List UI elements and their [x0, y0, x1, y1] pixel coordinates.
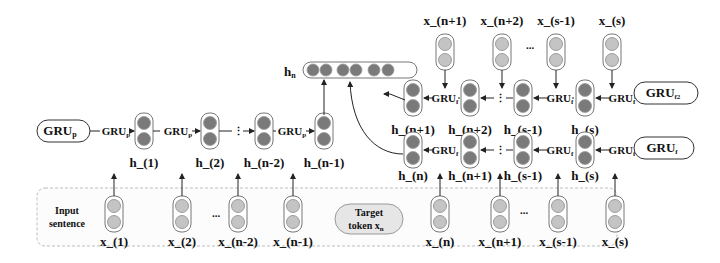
hidden-state-cell [514, 80, 532, 116]
input-token-cell [547, 34, 565, 70]
input-token-label: x_(s) [599, 13, 626, 28]
concatenated-hidden-vector: hn [284, 62, 417, 80]
input-token-cell [105, 196, 123, 232]
hidden-state-label: h_(n) [398, 168, 428, 183]
input-token-label: x_(2) [168, 234, 196, 249]
gru-p-cell-label: GRUp [278, 125, 306, 139]
gru-f-cell-label: GRUf [609, 92, 636, 106]
gru-p-module: GRUp [37, 120, 90, 142]
input-token-label: x_(s) [602, 234, 629, 249]
ellipsis: ⋮ [495, 92, 506, 104]
input-token-label: x_(n-1) [273, 234, 313, 249]
ellipsis: ⋮ [233, 125, 244, 137]
gru-p-cell-label: GRUp [164, 125, 192, 139]
input-token-label: x_(1) [100, 234, 128, 249]
input-token-label: x_(n) [426, 234, 455, 249]
hidden-state-cell [315, 113, 333, 149]
hidden-state-cell [255, 113, 273, 149]
hidden-state-cell [514, 132, 532, 168]
hidden-state-label: h_(n-1) [304, 155, 344, 170]
hidden-state-label: h_(s-1) [504, 168, 542, 183]
input-token-cell [173, 196, 191, 232]
gru-f-cell-label: GRUf [432, 144, 459, 158]
hidden-state-label: h_(s) [571, 168, 598, 183]
input-token-label: x_(n+2) [481, 13, 524, 28]
input-token-label: x_(n+1) [479, 234, 522, 249]
input-sentence-label-2: sentence [49, 218, 86, 229]
hn-label: hn [284, 64, 296, 80]
hidden-state-cell [461, 80, 479, 116]
hidden-state-label: h_(n-2) [244, 155, 284, 170]
hidden-state-cell [404, 80, 422, 116]
hidden-state-label: h_(2) [196, 155, 225, 170]
connector-fol2-to-hn [350, 82, 403, 154]
top-input-ellipsis: ... [526, 39, 535, 51]
input-token-label: x_(s-1) [539, 234, 577, 249]
input-token-cell [493, 34, 511, 70]
hidden-state-label: h_(n+1) [448, 168, 492, 183]
hidden-state-cell [576, 132, 594, 168]
input-token-cell [491, 196, 509, 232]
input-token-cell [606, 196, 624, 232]
input-token-cell [436, 34, 454, 70]
gru-f-cell-label: GRUf [609, 144, 636, 158]
hidden-state-cell [576, 80, 594, 116]
ellipsis: ⋮ [495, 144, 506, 156]
input-token-label: x_(n+1) [424, 13, 467, 28]
input-token-label: x_(s-1) [537, 13, 575, 28]
target-token: Target token xn [335, 204, 403, 234]
diagram-canvas: Input sentence Target token xn x_(1)x_(2… [0, 0, 720, 263]
input-ellipsis-left: ... [212, 207, 221, 219]
gru-f-cell-label: GRUf [547, 144, 574, 158]
input-token-cell [284, 196, 302, 232]
hidden-state-cell [135, 113, 153, 149]
hidden-state-cell [201, 113, 219, 149]
hidden-state-cell [404, 132, 422, 168]
hidden-state-cell [461, 132, 479, 168]
gru-p-cell-label: GRUp [102, 125, 130, 139]
svg-text:GRUf: GRUf [646, 140, 678, 156]
gru-f-cell-label: GRUf [432, 92, 459, 106]
input-ellipsis-right: ... [520, 204, 529, 216]
gru-f-cell-label: GRUf [547, 92, 574, 106]
svg-text:GRUp: GRUp [43, 123, 77, 139]
target-token-label-1: Target [355, 207, 384, 218]
input-sentence-label-1: Input [55, 205, 80, 216]
input-token-cell [431, 196, 449, 232]
input-token-cell [229, 196, 247, 232]
hidden-state-label: h_(1) [130, 155, 159, 170]
input-token-label: x_(n-2) [218, 234, 258, 249]
gru-f2-module: GRUf2 [634, 82, 698, 104]
gru-f-module: GRUf [634, 137, 694, 159]
connector-fol1-to-hn [384, 94, 405, 100]
input-token-cell [603, 34, 621, 70]
input-token-cell [549, 196, 567, 232]
